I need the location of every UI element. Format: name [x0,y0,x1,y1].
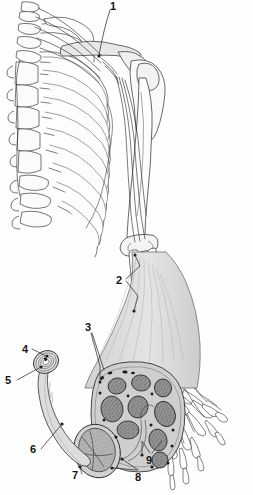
callout-label-6: 6 [30,444,36,455]
anatomical-figure [0,0,253,495]
callout-label-4: 4 [22,344,28,355]
callout-label-9: 9 [146,455,152,466]
callout-label-8: 8 [135,472,141,483]
callout-label-5: 5 [5,375,11,386]
callout-label-3: 3 [85,322,91,333]
callout-label-7: 7 [72,470,78,481]
marker-dot-8a [114,435,117,438]
callout-label-2: 2 [116,275,122,286]
callout-label-1: 1 [110,1,116,12]
